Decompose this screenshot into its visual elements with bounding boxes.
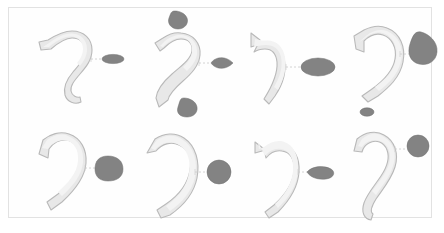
panel-7-graphic: [250, 128, 350, 220]
panel-5: [36, 128, 134, 216]
blob-ellipse-small-4: [360, 108, 374, 116]
blob-triangle-bottom-2: [177, 98, 197, 117]
panel-6-graphic: [143, 128, 243, 220]
blob-triangle-4: [409, 32, 437, 65]
panel-2: [143, 8, 247, 120]
blob-ellipse-3: [301, 58, 335, 76]
blob-flat-ellipse-7: [307, 167, 334, 180]
panel-1-graphic: [34, 20, 134, 108]
panel-2-graphic: [143, 8, 247, 120]
panel-1: [34, 20, 134, 108]
panel-4-graphic: [348, 20, 440, 118]
figure-root: Eight panels arranged in a 2x4 grid. Eac…: [0, 0, 444, 233]
ribbon-highlight-8: [358, 134, 395, 195]
panel-7: [250, 128, 350, 220]
blob-circle-6: [207, 160, 231, 184]
panel-8-graphic: [350, 128, 442, 222]
panel-6: [143, 128, 243, 220]
panel-8: [350, 128, 442, 222]
blob-circle-8: [407, 135, 429, 157]
blob-lens-2: [211, 58, 233, 69]
panel-3: [248, 22, 350, 114]
blob-ellipse-1: [102, 54, 124, 63]
blob-rounded-square-5: [95, 156, 123, 181]
panel-5-graphic: [36, 128, 134, 216]
panel-3-graphic: [248, 22, 350, 114]
ribbon-highlight-5: [42, 135, 83, 196]
panel-4: [348, 20, 440, 118]
blob-triangle-top-2: [168, 11, 187, 29]
